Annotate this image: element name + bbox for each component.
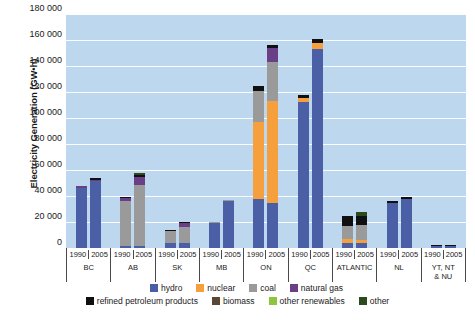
bar-group xyxy=(66,14,110,248)
bar-segment xyxy=(267,101,278,202)
legend-item[interactable]: refined petroleum products xyxy=(86,296,198,306)
stacked-bar[interactable] xyxy=(342,216,353,248)
bar-group xyxy=(288,14,332,248)
bar-segment xyxy=(134,177,145,185)
y-tick-label: 140 000 xyxy=(29,55,62,65)
bar-segment xyxy=(120,201,131,246)
legend: hydronuclearcoalnatural gas refined petr… xyxy=(0,283,475,309)
legend-item[interactable]: nuclear xyxy=(196,283,235,293)
bar-segment xyxy=(253,199,264,248)
x-tick-year: 2005 xyxy=(399,250,421,259)
legend-item[interactable]: other xyxy=(359,296,389,306)
x-tick-year: 1990 xyxy=(422,250,444,259)
bar-segment xyxy=(298,102,309,248)
stacked-bar[interactable] xyxy=(165,230,176,248)
x-group-label: QC xyxy=(289,263,332,272)
stacked-bar[interactable] xyxy=(179,222,190,248)
legend-item[interactable]: other renewables xyxy=(269,296,345,306)
stacked-bar[interactable] xyxy=(298,95,309,248)
stacked-bar[interactable] xyxy=(401,197,412,248)
y-tick-label: 20 000 xyxy=(34,211,62,221)
bar-group xyxy=(244,14,288,248)
legend-label: biomass xyxy=(223,296,255,306)
stacked-bar[interactable] xyxy=(223,200,234,248)
bar-group xyxy=(155,14,199,248)
stacked-bar[interactable] xyxy=(209,222,220,248)
x-axis-group: 19902005ATLANTIC xyxy=(332,248,376,282)
stacked-bar[interactable] xyxy=(387,201,398,248)
bar-segment xyxy=(253,122,264,199)
bar-segment xyxy=(356,225,367,239)
bar-group xyxy=(377,14,421,248)
legend-swatch xyxy=(290,284,298,292)
legend-label: other xyxy=(370,296,389,306)
x-tick-year: 2005 xyxy=(89,250,111,259)
x-tick-year: 2005 xyxy=(177,250,199,259)
bar-segment xyxy=(267,48,278,62)
x-axis-group: 19902005AB xyxy=(110,248,154,282)
x-tick-year: 2005 xyxy=(133,250,155,259)
x-tick-year: 2005 xyxy=(355,250,377,259)
y-tick-label: 60 000 xyxy=(34,159,62,169)
bar-group xyxy=(199,14,243,248)
legend-label: nuclear xyxy=(207,283,235,293)
legend-item[interactable]: biomass xyxy=(212,296,255,306)
legend-swatch xyxy=(359,297,367,305)
x-tick-year: 2005 xyxy=(266,250,288,259)
legend-swatch xyxy=(86,297,94,305)
y-tick-label: 120 000 xyxy=(29,81,62,91)
legend-swatch xyxy=(196,284,204,292)
x-group-label: ATLANTIC xyxy=(333,263,376,272)
x-tick-year: 1990 xyxy=(156,250,178,259)
bar-segment xyxy=(179,227,190,243)
legend-label: hydro xyxy=(161,283,182,293)
stacked-bar[interactable] xyxy=(90,178,101,248)
x-axis-group: 19902005BC xyxy=(66,248,110,282)
bar-segment xyxy=(90,181,101,248)
y-tick-label: 100 000 xyxy=(29,107,62,117)
bar-segment xyxy=(401,199,412,248)
x-axis-group: 19902005YT, NT & NU xyxy=(421,248,466,282)
y-tick-label: 0 xyxy=(57,237,62,247)
legend-item[interactable]: coal xyxy=(249,283,276,293)
legend-item[interactable]: hydro xyxy=(150,283,182,293)
chart-container: Electricity Generation (GW•h) 180 000160… xyxy=(0,0,475,326)
stacked-bar[interactable] xyxy=(120,197,131,248)
stacked-bar[interactable] xyxy=(312,39,323,248)
legend-label: refined petroleum products xyxy=(97,296,198,306)
x-axis: 19902005BC19902005AB19902005SK19902005MB… xyxy=(66,248,466,282)
legend-swatch xyxy=(150,284,158,292)
x-group-label: NL xyxy=(377,263,420,272)
bar-segment xyxy=(253,91,264,122)
legend-swatch xyxy=(249,284,257,292)
bar-segment xyxy=(267,203,278,249)
legend-label: coal xyxy=(260,283,276,293)
bar-segment xyxy=(223,201,234,248)
x-tick-year: 1990 xyxy=(67,250,89,259)
legend-row-2: refined petroleum productsbiomassother r… xyxy=(0,296,475,306)
x-group-label: YT, NT & NU xyxy=(422,263,465,281)
x-axis-group: 19902005QC xyxy=(288,248,332,282)
x-tick-year: 1990 xyxy=(333,250,355,259)
x-group-label: AB xyxy=(111,263,154,272)
stacked-bar[interactable] xyxy=(356,212,367,248)
bar-segment xyxy=(312,49,323,248)
bar-segment xyxy=(342,216,353,226)
x-group-label: BC xyxy=(67,263,110,272)
bar-segment xyxy=(356,216,367,225)
bar-segment xyxy=(165,231,176,243)
stacked-bar[interactable] xyxy=(134,173,145,248)
y-tick-label: 40 000 xyxy=(34,185,62,195)
bar-group xyxy=(110,14,154,248)
x-axis-group: 19902005NL xyxy=(376,248,420,282)
legend-label: other renewables xyxy=(280,296,345,306)
x-tick-year: 1990 xyxy=(377,250,399,259)
stacked-bar[interactable] xyxy=(267,45,278,248)
legend-swatch xyxy=(269,297,277,305)
x-tick-year: 1990 xyxy=(289,250,311,259)
stacked-bar[interactable] xyxy=(76,186,87,248)
x-tick-year: 2005 xyxy=(443,250,465,259)
y-tick-label: 80 000 xyxy=(34,133,62,143)
stacked-bar[interactable] xyxy=(253,86,264,248)
legend-item[interactable]: natural gas xyxy=(290,283,343,293)
